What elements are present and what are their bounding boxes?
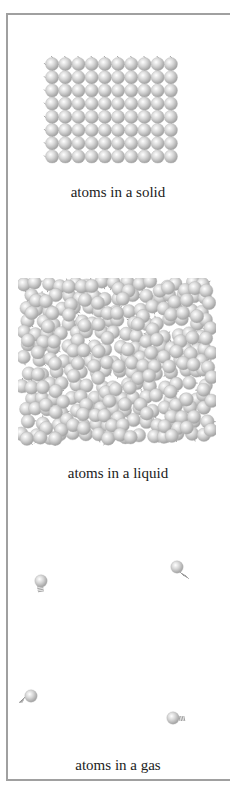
atom — [116, 292, 130, 306]
atom — [98, 71, 111, 84]
atom — [138, 110, 151, 123]
atom — [124, 430, 138, 444]
atom — [125, 110, 138, 123]
atom — [98, 110, 111, 123]
atom — [91, 371, 105, 385]
atom — [151, 84, 164, 97]
atom — [72, 110, 85, 123]
motion-streak — [38, 589, 44, 590]
atom — [49, 405, 63, 419]
atom — [161, 281, 175, 295]
atom — [138, 97, 151, 110]
caption-gas: atoms in a gas — [0, 757, 230, 774]
atom — [101, 432, 115, 446]
atom — [112, 84, 125, 97]
atom — [78, 319, 92, 333]
atom — [72, 71, 85, 84]
atom — [85, 150, 98, 163]
atom — [46, 137, 59, 150]
atom — [164, 385, 178, 399]
atom — [34, 431, 48, 445]
atom — [151, 71, 164, 84]
atom — [204, 346, 216, 360]
atom — [138, 71, 151, 84]
atom — [183, 376, 197, 390]
atom — [150, 333, 164, 347]
atom — [164, 150, 177, 163]
atom — [85, 58, 98, 71]
motion-streak — [182, 716, 183, 721]
gas-atoms-scattered — [0, 540, 230, 740]
atom — [85, 137, 98, 150]
atom — [85, 84, 98, 97]
atom — [151, 110, 164, 123]
atom — [91, 296, 105, 310]
atom — [72, 58, 85, 71]
atom — [167, 712, 179, 724]
atom — [112, 150, 125, 163]
atom — [151, 150, 164, 163]
atom — [20, 432, 34, 446]
atom — [125, 58, 138, 71]
atom — [138, 137, 151, 150]
atom — [47, 335, 61, 349]
atom — [85, 124, 98, 137]
atom — [46, 306, 60, 320]
atom — [123, 381, 137, 395]
motion-streak — [19, 702, 23, 703]
atom — [46, 97, 59, 110]
motion-streak — [181, 716, 182, 721]
atom — [164, 84, 177, 97]
atom — [31, 368, 45, 382]
atom — [144, 346, 158, 360]
atom — [142, 369, 156, 383]
atom — [46, 124, 59, 137]
atom — [59, 150, 72, 163]
atom — [204, 423, 216, 437]
atom — [98, 124, 111, 137]
atom — [164, 124, 177, 137]
atom — [151, 58, 164, 71]
atom — [98, 150, 111, 163]
atom — [109, 383, 123, 397]
atom — [48, 357, 62, 371]
atom — [101, 331, 115, 345]
atom — [164, 137, 177, 150]
atom — [112, 97, 125, 110]
atom — [112, 124, 125, 137]
atom — [170, 345, 184, 359]
liquid-atoms-cluster — [18, 278, 216, 446]
atom — [138, 58, 151, 71]
atom — [112, 360, 126, 374]
atom — [125, 71, 138, 84]
atom — [165, 429, 179, 443]
atom — [85, 110, 98, 123]
atom — [125, 84, 138, 97]
atom — [125, 97, 138, 110]
atom — [59, 84, 72, 97]
atom — [187, 358, 201, 372]
atom — [140, 407, 154, 421]
atom — [59, 110, 72, 123]
atom — [25, 690, 37, 702]
atom — [125, 124, 138, 137]
atom — [98, 58, 111, 71]
atom — [67, 369, 81, 383]
atom — [112, 137, 125, 150]
atom — [92, 345, 106, 359]
atom — [72, 137, 85, 150]
atom — [199, 284, 213, 298]
atom — [59, 71, 72, 84]
atom — [59, 97, 72, 110]
atom — [125, 137, 138, 150]
atom — [171, 561, 183, 573]
atom — [49, 432, 63, 446]
atom — [125, 150, 138, 163]
atom — [59, 137, 72, 150]
atom — [35, 575, 47, 587]
atom — [186, 331, 200, 345]
atom — [151, 137, 164, 150]
atom — [180, 421, 194, 435]
atom — [131, 317, 145, 331]
atom — [59, 58, 72, 71]
